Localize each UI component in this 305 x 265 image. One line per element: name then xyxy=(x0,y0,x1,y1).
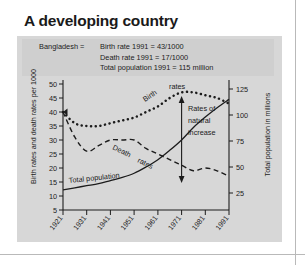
x-tick-label: 1971 xyxy=(166,214,183,232)
x-axis-ticks xyxy=(63,210,229,215)
y-tick-label: 15 xyxy=(49,178,57,187)
label-increase: increase xyxy=(188,128,216,137)
y-tick-label: 10 xyxy=(49,192,57,201)
y-tick-label: 30 xyxy=(49,136,57,145)
y2-tick-label: 50 xyxy=(236,163,244,172)
label-birth-rates: rates xyxy=(169,82,186,91)
label-birth: Birth xyxy=(141,88,158,104)
page-title: A developing country xyxy=(24,12,178,30)
label-death: Death xyxy=(111,143,132,160)
x-tick-label: 1951 xyxy=(119,214,136,232)
label-total-population: Total population xyxy=(68,171,120,185)
x-tick-label: 1931 xyxy=(71,214,88,232)
y2-tick-label: 100 xyxy=(236,111,248,120)
x-tick-label: 1921 xyxy=(47,214,64,232)
page-rule-right xyxy=(295,0,296,265)
y2-tick-label: 25 xyxy=(236,189,244,198)
y-tick-label: 45 xyxy=(49,94,57,103)
x-tick-label: 1941 xyxy=(95,214,112,232)
y-tick-label: 5 xyxy=(53,206,57,215)
y-tick-label: 50 xyxy=(49,80,57,89)
y-axis-left-ticks: 5 10 15 20 25 30 35 40 45 50 xyxy=(49,80,63,215)
chart-plot: 5 10 15 20 25 30 35 40 45 50 xyxy=(17,36,282,242)
x-axis-tick-labels: 1921 1931 1941 1951 1961 1971 1981 1991 xyxy=(47,214,230,232)
y-tick-label: 40 xyxy=(49,108,57,117)
y-axis-right-ticks: 25 50 75 100 125 xyxy=(229,85,248,198)
y-tick-label: 20 xyxy=(49,164,57,173)
y2-tick-label: 75 xyxy=(236,137,244,146)
y-tick-label: 35 xyxy=(49,122,57,131)
x-tick-label: 1991 xyxy=(213,214,230,232)
label-rates-of: Rates of xyxy=(188,104,216,113)
natural-increase-arrow xyxy=(179,96,185,183)
label-natural: natural xyxy=(188,116,211,125)
page-canvas: A developing country Bangladesh = Birth … xyxy=(0,0,305,265)
figure-panel: Bangladesh = Birth rate 1991 = 43/1000 D… xyxy=(17,36,282,242)
page-rule-bottom xyxy=(0,254,305,255)
x-tick-label: 1981 xyxy=(190,214,207,232)
label-death-rates: rates xyxy=(136,156,155,171)
y2-tick-label: 125 xyxy=(236,85,248,94)
y-tick-label: 25 xyxy=(49,150,57,159)
x-tick-label: 1961 xyxy=(142,214,159,232)
